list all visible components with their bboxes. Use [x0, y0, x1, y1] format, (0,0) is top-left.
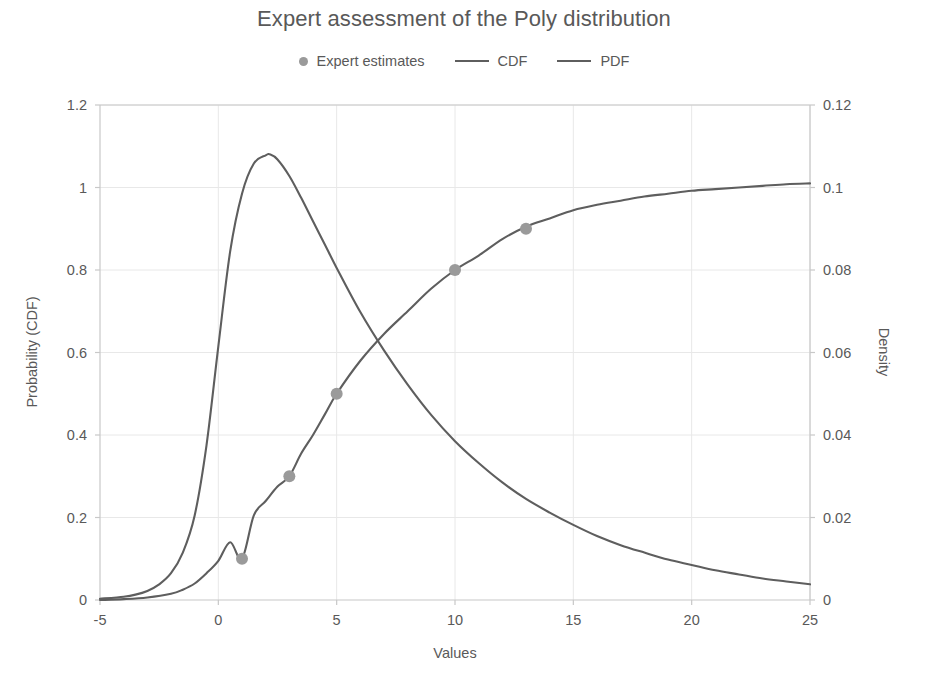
tick-label: 0.06: [823, 345, 851, 361]
tick-label: -5: [94, 612, 107, 628]
y-axis-right-title: Density: [876, 328, 892, 376]
tick-label: 5: [333, 612, 341, 628]
tick-label: 0: [79, 592, 87, 608]
expert-estimate-point: [520, 223, 532, 235]
tick-label: 1: [79, 180, 87, 196]
tick-label: 0: [214, 612, 222, 628]
tick-label: 0.02: [823, 510, 851, 526]
tick-label: 0.12: [823, 97, 851, 113]
tick-label: 1.2: [67, 97, 87, 113]
tick-label: 0.08: [823, 262, 851, 278]
chart-container: Expert assessment of the Poly distributi…: [0, 0, 928, 692]
tick-label: 20: [684, 612, 700, 628]
tick-label: 0.6: [67, 345, 87, 361]
tick-label: 0.1: [823, 180, 843, 196]
tick-label: 0.2: [67, 510, 87, 526]
plot-area: [0, 0, 928, 692]
expert-estimate-point: [449, 264, 461, 276]
expert-estimate-point: [331, 388, 343, 400]
x-axis-title: Values: [433, 645, 476, 661]
tick-label: 25: [802, 612, 818, 628]
expert-estimate-point: [236, 553, 248, 565]
expert-estimate-point: [283, 470, 295, 482]
expert-estimate-points: [236, 223, 532, 565]
y-axis-left-title: Probability (CDF): [24, 296, 40, 407]
tick-label: 0: [823, 592, 831, 608]
tick-label: 0.04: [823, 427, 851, 443]
gridlines: [100, 105, 810, 600]
tick-label: 0.8: [67, 262, 87, 278]
tick-label: 15: [565, 612, 581, 628]
tick-label: 0.4: [67, 427, 87, 443]
tick-label: 10: [447, 612, 463, 628]
